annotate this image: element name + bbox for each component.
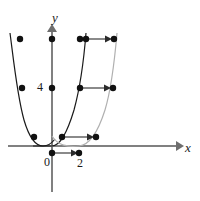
figure-canvas (0, 0, 200, 201)
point-shifted-low (93, 134, 99, 140)
curve-left-parabola (10, 33, 55, 146)
x-axis-arrowhead (176, 141, 184, 151)
point-middle-mid (77, 85, 83, 91)
x-tick-label-2: 2 (77, 157, 83, 169)
origin-label: 0 (44, 156, 50, 168)
parabola-translation-figure: y x 4 0 2 (0, 0, 200, 201)
shift-arrow-low (63, 134, 94, 141)
point-middle-top-b (77, 36, 83, 42)
point-middle-top (83, 36, 89, 42)
y-tick-label-4: 4 (37, 81, 43, 93)
point-shifted-top (111, 36, 117, 42)
point-left-mid (19, 85, 25, 91)
shift-arrow-mid (81, 85, 111, 92)
point-shifted-mid (110, 85, 116, 91)
point-y-axis-top (49, 36, 55, 42)
point-middle-low (59, 134, 65, 140)
y-axis-label: y (52, 11, 58, 24)
x-axis-label: x (185, 141, 191, 154)
point-left-low (31, 134, 37, 140)
shift-arrow-vertex (53, 150, 78, 157)
point-left-top (17, 36, 23, 42)
point-y-axis-4 (49, 85, 55, 91)
y-axis-arrowhead (47, 24, 57, 32)
